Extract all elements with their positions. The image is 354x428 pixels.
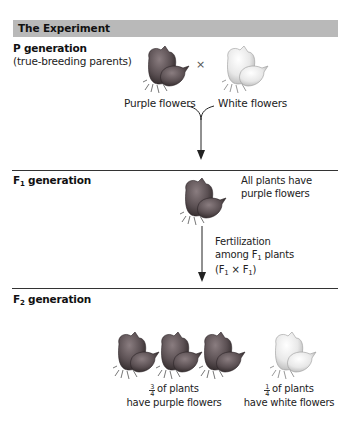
divider-p-f1 xyxy=(12,170,338,171)
cross-symbol: × xyxy=(196,58,205,71)
white-flower-parent-icon xyxy=(222,44,270,96)
white-flowers-label: White flowers xyxy=(218,97,287,110)
purple-flower-parent-icon xyxy=(143,44,191,96)
f2-purple-ratio-label: 34of plants have purple flowers xyxy=(118,383,230,410)
experiment-header: The Experiment xyxy=(13,20,338,37)
experiment-title: The Experiment xyxy=(18,22,110,34)
p-generation-label: P generation xyxy=(13,42,87,54)
f1-generation-label: F1 generation xyxy=(13,174,91,188)
white-flower-f2-icon xyxy=(270,330,318,382)
f2-white-ratio-label: 14of plants have white flowers xyxy=(240,383,338,410)
purple-flower-f1-icon xyxy=(180,176,228,228)
fertilization-note: Fertilization among F1 plants (F1 × F1) xyxy=(215,236,294,280)
divider-f1-f2 xyxy=(12,288,338,289)
purple-flower-f2-icon-2 xyxy=(156,330,204,382)
purple-flower-f2-icon-3 xyxy=(199,330,247,382)
cross-arrow-icon xyxy=(180,100,224,164)
fertilization-arrow-icon xyxy=(196,226,208,284)
f2-generation-label: F2 generation xyxy=(13,293,91,307)
p-generation-sublabel: (true-breeding parents) xyxy=(13,55,132,68)
f1-result-note: All plants have purple flowers xyxy=(241,175,312,200)
purple-flower-f2-icon-1 xyxy=(113,330,161,382)
